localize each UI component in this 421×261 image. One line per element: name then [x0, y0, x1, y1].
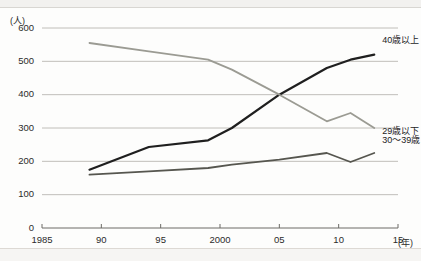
x-axis-tick-label: 90: [81, 234, 121, 245]
line-chart: (人) 0100200300400500600 1985909520000510…: [0, 0, 421, 261]
y-axis-tick-label: 100: [8, 188, 34, 199]
series-line-3: [89, 153, 374, 175]
x-axis-tick-label: 05: [259, 234, 299, 245]
y-axis-tick-label: 400: [8, 88, 34, 99]
plot-canvas: [0, 0, 421, 261]
y-axis-tick-label: 600: [8, 22, 34, 33]
series-line-2: [89, 43, 374, 128]
x-axis-tick-label: 2000: [200, 234, 240, 245]
y-axis-tick-label: 0: [8, 222, 34, 233]
y-axis-tick-label: 300: [8, 122, 34, 133]
series-label-1: 40歳以上: [382, 33, 419, 46]
x-axis-tick-label: 10: [319, 234, 359, 245]
series-label-3: 30〜39歳: [382, 133, 420, 146]
y-axis-tick-label: 200: [8, 155, 34, 166]
x-axis-tick-label: 95: [141, 234, 181, 245]
y-axis-tick-label: 500: [8, 55, 34, 66]
x-axis-unit-label: (年): [398, 236, 413, 249]
x-axis-tick-label: 1985: [22, 234, 62, 245]
chart-screenshot: (人) 0100200300400500600 1985909520000510…: [0, 0, 421, 261]
series-line-1: [89, 55, 374, 170]
